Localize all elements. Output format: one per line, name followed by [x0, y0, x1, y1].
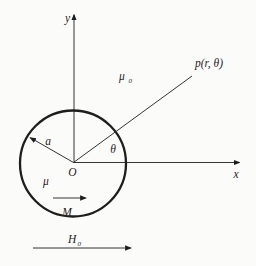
x-axis-label: x — [232, 168, 239, 180]
field-point-ray — [74, 76, 193, 163]
field-point-label: p(r, θ) — [194, 57, 223, 70]
circle-boundary — [20, 111, 126, 217]
outer-permeability-label: μ — [118, 70, 125, 83]
magnetized-circle-diagram: y x O a θ p(r, θ) μ μ 0 M H 0 — [0, 0, 256, 266]
outer-permeability-subscript: 0 — [129, 77, 133, 85]
inner-permeability-label: μ — [42, 175, 49, 188]
angle-label: θ — [110, 143, 116, 155]
radius-arrow — [31, 138, 74, 163]
magnetization-label: M — [61, 206, 73, 218]
applied-field-subscript: 0 — [78, 240, 82, 248]
figure-canvas: y x O a θ p(r, θ) μ μ 0 M H 0 — [0, 0, 256, 266]
origin-label: O — [68, 166, 77, 178]
y-axis-label: y — [64, 12, 71, 25]
applied-field-label: H — [67, 233, 77, 245]
radius-label: a — [45, 135, 51, 147]
